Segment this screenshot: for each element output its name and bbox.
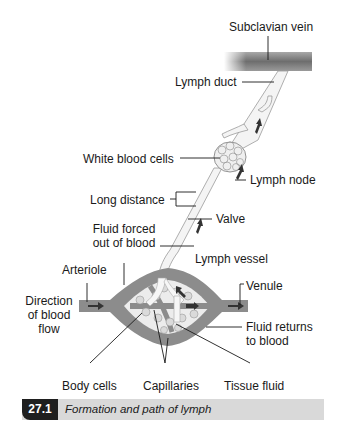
figure-caption: 27.1 Formation and path of lymph	[22, 399, 324, 420]
label-body-cells: Body cells	[62, 379, 117, 393]
label-fluid-forced-line1: Fluid forced	[88, 222, 160, 236]
label-arteriole: Arteriole	[62, 263, 107, 277]
label-direction-line3: flow	[20, 322, 78, 336]
label-capillaries: Capillaries	[143, 379, 199, 393]
label-white-blood-cells: White blood cells	[83, 152, 174, 166]
label-lymph-node: Lymph node	[250, 173, 316, 187]
label-fluid-forced: Fluid forced out of blood	[88, 222, 160, 250]
label-direction-of-blood-flow: Direction of blood flow	[20, 294, 78, 336]
label-long-distance: Long distance	[90, 193, 165, 207]
label-fluid-returns-line2: to blood	[246, 334, 313, 348]
lymph-diagram: Subclavian vein Lymph duct White blood c…	[0, 0, 338, 435]
label-fluid-returns-line1: Fluid returns	[246, 320, 313, 334]
label-fluid-returns: Fluid returns to blood	[246, 320, 313, 348]
label-direction-line2: of blood	[20, 308, 78, 322]
caption-text: Formation and path of lymph	[65, 399, 211, 420]
label-valve: Valve	[216, 212, 245, 226]
label-tissue-fluid: Tissue fluid	[224, 379, 284, 393]
label-subclavian-vein: Subclavian vein	[229, 20, 313, 34]
label-lymph-vessel: Lymph vessel	[195, 252, 268, 266]
label-fluid-forced-line2: out of blood	[88, 236, 160, 250]
diagram-artwork	[0, 0, 338, 435]
label-venule: Venule	[246, 279, 283, 293]
label-direction-line1: Direction	[20, 294, 78, 308]
caption-number: 27.1	[22, 399, 58, 420]
label-lymph-duct: Lymph duct	[175, 75, 237, 89]
